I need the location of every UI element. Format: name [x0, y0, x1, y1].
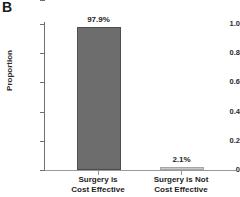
y-axis-spine [44, 22, 45, 171]
y-axis-label: Proportion [5, 41, 14, 101]
bar-value-label: 2.1% [152, 156, 212, 164]
y-tick-label: 0.8 [202, 49, 240, 57]
figure-panel-b: B Proportion 1.0 0.8 0.6 0.4 0.2 0 97.9%… [0, 0, 240, 197]
y-tick-mark [40, 53, 45, 54]
bar-surgery-is-cost-effective [77, 27, 121, 170]
y-tick-mark [40, 24, 45, 25]
y-tick-label: 0 [202, 166, 240, 174]
y-tick-mark [40, 82, 45, 83]
y-tick-label: 0.4 [202, 108, 240, 116]
x-category-label-1-line1: Surgery is [78, 175, 117, 184]
x-category-label-2: Surgery is Not Cost Effective [131, 175, 231, 194]
panel-label: B [2, 0, 12, 14]
x-category-label-2-line2: Cost Effective [131, 185, 231, 195]
bar-surgery-is-not-cost-effective [160, 167, 204, 170]
x-category-label-2-line1: Surgery is Not [154, 175, 209, 184]
y-tick-label: 1.0 [202, 20, 240, 28]
y-tick-mark [40, 141, 45, 142]
bar-value-label: 97.9% [69, 16, 129, 24]
y-tick-label: 0.6 [202, 78, 240, 86]
y-tick-label: 0.2 [202, 137, 240, 145]
y-tick-mark [40, 0, 45, 1]
y-tick-mark [40, 112, 45, 113]
y-tick-mark [40, 170, 45, 171]
